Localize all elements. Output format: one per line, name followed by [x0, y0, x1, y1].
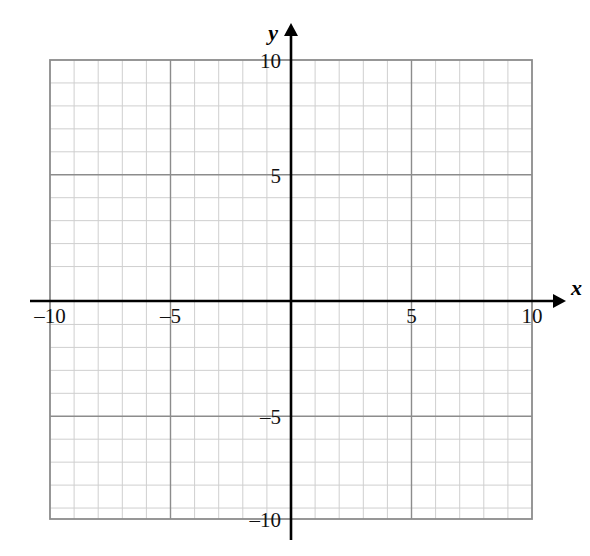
x-tick-label-pos10: 10 — [522, 304, 543, 328]
y-axis-arrowhead — [284, 23, 298, 36]
x-axis-arrowhead — [553, 294, 566, 308]
y-tick-label-pos10: 10 — [260, 49, 281, 73]
x-tick-label-neg5: –5 — [159, 304, 181, 328]
y-tick-label-pos5: 5 — [271, 164, 282, 188]
x-axis-label: x — [570, 275, 582, 300]
coordinate-grid-figure: x y –10 –5 5 10 10 5 –5 –10 — [0, 0, 590, 556]
y-tick-label-neg5: –5 — [259, 405, 281, 429]
coordinate-plane: x y –10 –5 5 10 10 5 –5 –10 — [0, 0, 590, 556]
y-axis-label: y — [265, 20, 278, 45]
y-tick-label-neg10: –10 — [249, 508, 282, 532]
x-tick-label-pos5: 5 — [406, 304, 417, 328]
x-tick-label-neg10: –10 — [33, 304, 66, 328]
